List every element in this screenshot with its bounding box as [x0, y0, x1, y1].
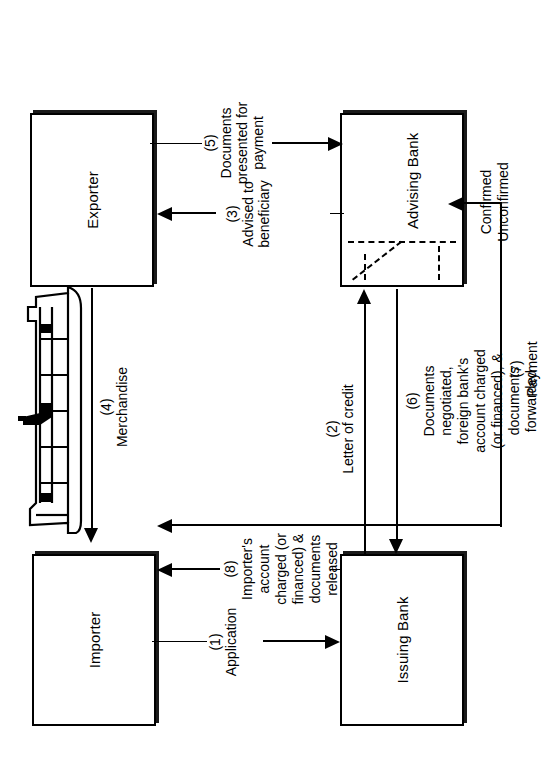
edge-1-arrowhead	[325, 635, 340, 649]
edge-4-arrowhead	[84, 528, 98, 543]
edge-2-shaft	[364, 304, 366, 556]
edge-5-label: (5) Documents presented for payment	[202, 88, 266, 198]
edge-1-line	[152, 641, 207, 642]
edge-7-arrowhead-exporter	[157, 519, 172, 533]
edge-7-riser-exporter	[172, 524, 502, 526]
edge-3-arrowhead	[157, 207, 172, 221]
node-importer-label: Importer	[86, 612, 103, 669]
cargo-ship-icon	[18, 282, 84, 544]
node-importer[interactable]: Importer	[32, 554, 156, 726]
edge-4-shaft	[91, 288, 93, 528]
edge-8-shaft	[172, 568, 220, 570]
edge-1-shaft	[263, 640, 325, 642]
node-issuing-bank-label: Issuing Bank	[394, 596, 411, 683]
diagram-canvas: Importer Issuing Bank Exporter Advising …	[0, 0, 554, 782]
advising-bank-diagonal-dashed	[352, 241, 402, 281]
edge-6-shaft	[396, 289, 398, 539]
edge-3-shaft	[172, 212, 216, 214]
node-advising-bank[interactable]: Advising Bank	[340, 113, 464, 287]
advising-bank-tick-bottom-dashed	[438, 246, 440, 280]
node-advising-bank-label: Advising Bank	[404, 133, 421, 229]
edge-7-arrowhead-advising	[448, 197, 463, 211]
edge-8-arrowhead	[157, 563, 172, 577]
edge-5-line	[150, 143, 202, 144]
node-exporter[interactable]: Exporter	[30, 113, 154, 287]
edge-4-label: (4) Merchandise	[98, 332, 130, 482]
edge-7-riser-advising	[462, 202, 502, 204]
edge-2-arrowhead	[357, 289, 371, 304]
edge-2-label: (2) Letter of credit	[324, 354, 356, 504]
diagram-page: Importer Issuing Bank Exporter Advising …	[0, 0, 554, 782]
edge-5-shaft	[272, 142, 328, 144]
edge-5-arrowhead	[328, 137, 343, 151]
edge-7-shaft	[500, 202, 502, 527]
edge-7-label: (7) Payment	[508, 304, 540, 434]
edge-6-arrowhead	[389, 539, 403, 554]
edge-3-line	[330, 213, 344, 214]
node-issuing-bank[interactable]: Issuing Bank	[340, 554, 464, 726]
node-exporter-label: Exporter	[84, 171, 101, 229]
edge-8-label: (8) Importer's account charged (or finan…	[222, 518, 341, 620]
